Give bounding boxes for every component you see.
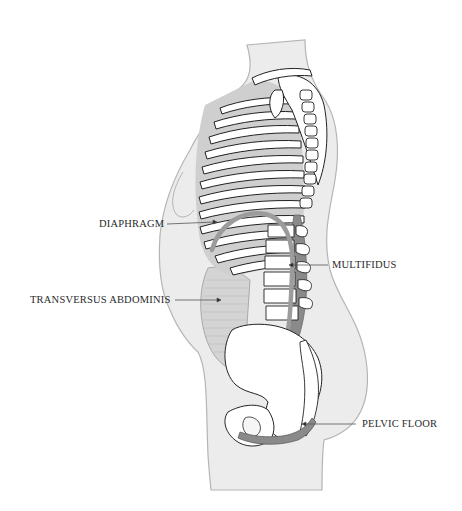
anatomy-illustration <box>0 0 462 511</box>
label-pelvic-floor: PELVIC FLOOR <box>362 418 437 430</box>
label-diaphragm: DIAPHRAGM <box>99 218 164 230</box>
label-transversus-abdominis: TRANSVERSUS ABDOMINIS <box>30 294 170 306</box>
label-multifidus: MULTIFIDUS <box>332 259 397 271</box>
